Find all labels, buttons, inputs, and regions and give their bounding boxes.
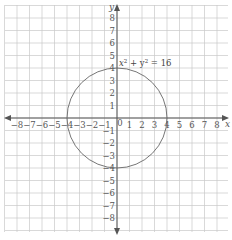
x-tick-label: −6 xyxy=(36,120,49,130)
equation-rhs: = 16 xyxy=(148,58,171,68)
x-tick-label: −3 xyxy=(73,120,86,130)
x-tick-label: 1 xyxy=(127,120,132,130)
y-axis-label: y xyxy=(108,2,115,12)
y-tick-label: 2 xyxy=(110,88,115,98)
x-tick-label: 8 xyxy=(214,120,219,130)
y-tick-label: −7 xyxy=(102,201,115,211)
y-tick-label: −5 xyxy=(102,176,115,186)
coordinate-plane: −8−7−6−5−4−3−2−1012345678−8−7−6−5−4−3−2−… xyxy=(0,0,232,240)
x-tick-label: −8 xyxy=(11,120,24,130)
y-tick-label: −3 xyxy=(102,151,115,161)
y-tick-label: 3 xyxy=(110,76,115,86)
x-tick-label: 3 xyxy=(152,120,157,130)
x-tick-label: 0 xyxy=(117,118,122,128)
x-tick-label: 6 xyxy=(189,120,194,130)
y-axis-down-arrow-icon xyxy=(114,228,120,235)
y-axis-up-arrow-icon xyxy=(114,4,120,11)
y-tick-label: 1 xyxy=(110,101,115,111)
x-tick-label: 5 xyxy=(177,120,182,130)
x-tick-label: −5 xyxy=(48,120,61,130)
equation-label: x2 + y2 = 16 xyxy=(119,58,171,68)
y-tick-label: −6 xyxy=(102,188,115,198)
y-tick-label: −1 xyxy=(102,126,115,136)
x-tick-label: −7 xyxy=(23,120,36,130)
y-tick-label: 5 xyxy=(110,51,115,61)
y-tick-label: 8 xyxy=(110,13,115,23)
y-tick-label: −8 xyxy=(102,213,115,223)
x-tick-label: −2 xyxy=(86,120,99,130)
x-tick-label: 7 xyxy=(202,120,207,130)
y-tick-label: 6 xyxy=(110,38,115,48)
x-axis-label: x xyxy=(225,119,230,129)
x-tick-label: 2 xyxy=(139,120,144,130)
y-tick-label: −2 xyxy=(102,138,115,148)
y-tick-label: 7 xyxy=(110,26,115,36)
equation-plus-y: + y xyxy=(127,58,145,68)
